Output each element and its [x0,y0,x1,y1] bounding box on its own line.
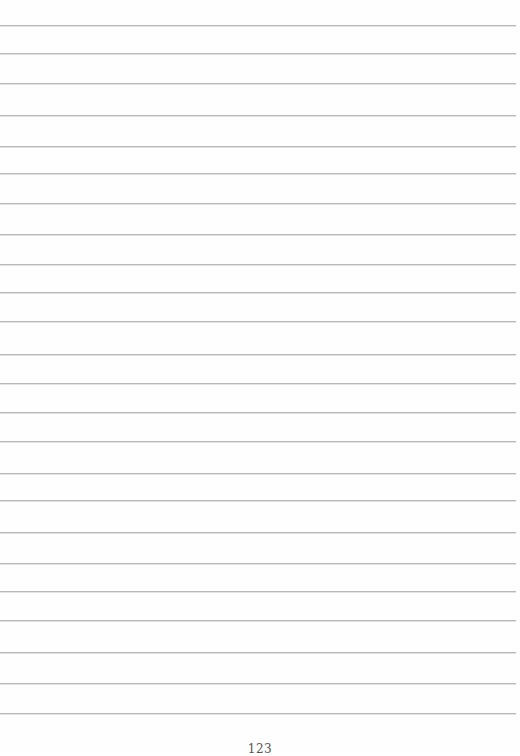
ruled-line [0,173,516,175]
ruled-line [0,563,516,565]
ruled-line [0,383,516,385]
ruled-line [0,713,516,715]
ruled-line [0,321,516,323]
ruled-line [0,354,516,356]
ruled-line [0,25,516,27]
ruled-line [0,234,516,236]
ruled-line [0,500,516,502]
ruled-line [0,620,516,622]
ruled-line [0,292,516,294]
ruled-line [0,591,516,593]
ruled-line [0,532,516,534]
ruled-line [0,412,516,414]
ruled-line [0,115,516,117]
ruled-line [0,441,516,443]
ruled-line [0,53,516,55]
ruled-line [0,203,516,205]
ruled-line [0,83,516,85]
ruled-line [0,264,516,266]
ruled-line [0,652,516,654]
ruled-line [0,146,516,148]
page-number: 123 [0,742,520,756]
ruled-line [0,473,516,475]
ruled-line [0,683,516,685]
